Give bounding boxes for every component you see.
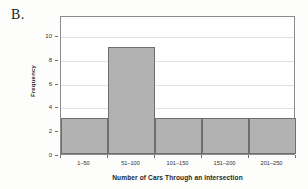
plot-area [60, 16, 295, 155]
bar [155, 118, 202, 154]
y-tick-label: 6 [49, 81, 52, 87]
bar [249, 118, 296, 154]
x-tick-mark [295, 155, 296, 158]
y-tick-mark [55, 131, 58, 132]
x-tick-mark [107, 155, 108, 158]
y-tick-label: 10 [45, 33, 52, 39]
x-axis-title: Number of Cars Through an Intersection [60, 174, 295, 181]
x-tick-label: 1–50 [77, 160, 89, 166]
y-tick-label: 8 [49, 57, 52, 63]
x-tick-label: 51–100 [121, 160, 140, 166]
x-tick-label: 201–250 [261, 160, 283, 166]
y-tick-label: 0 [49, 152, 52, 158]
y-tick-label: 2 [49, 128, 52, 134]
bar [108, 47, 155, 154]
y-tick-mark [55, 155, 58, 156]
y-tick-mark [55, 84, 58, 85]
y-tick-mark [55, 36, 58, 37]
bar-series [61, 17, 294, 154]
x-tick-label: 101–150 [167, 160, 189, 166]
y-tick-label: 4 [49, 104, 52, 110]
y-tick-mark [55, 107, 58, 108]
bar [61, 118, 108, 154]
y-tick-mark [55, 60, 58, 61]
x-tick-mark [60, 155, 61, 158]
bar [202, 118, 249, 154]
x-tick-label: 151–200 [214, 160, 236, 166]
x-tick-mark [201, 155, 202, 158]
x-tick-mark [154, 155, 155, 158]
histogram-figure: B. Frequency 0246810 1–5051–100101–15015… [0, 0, 308, 189]
x-tick-mark [248, 155, 249, 158]
y-axis: 0246810 [0, 16, 58, 155]
x-axis: 1–5051–100101–150151–200201–250 [60, 155, 295, 171]
